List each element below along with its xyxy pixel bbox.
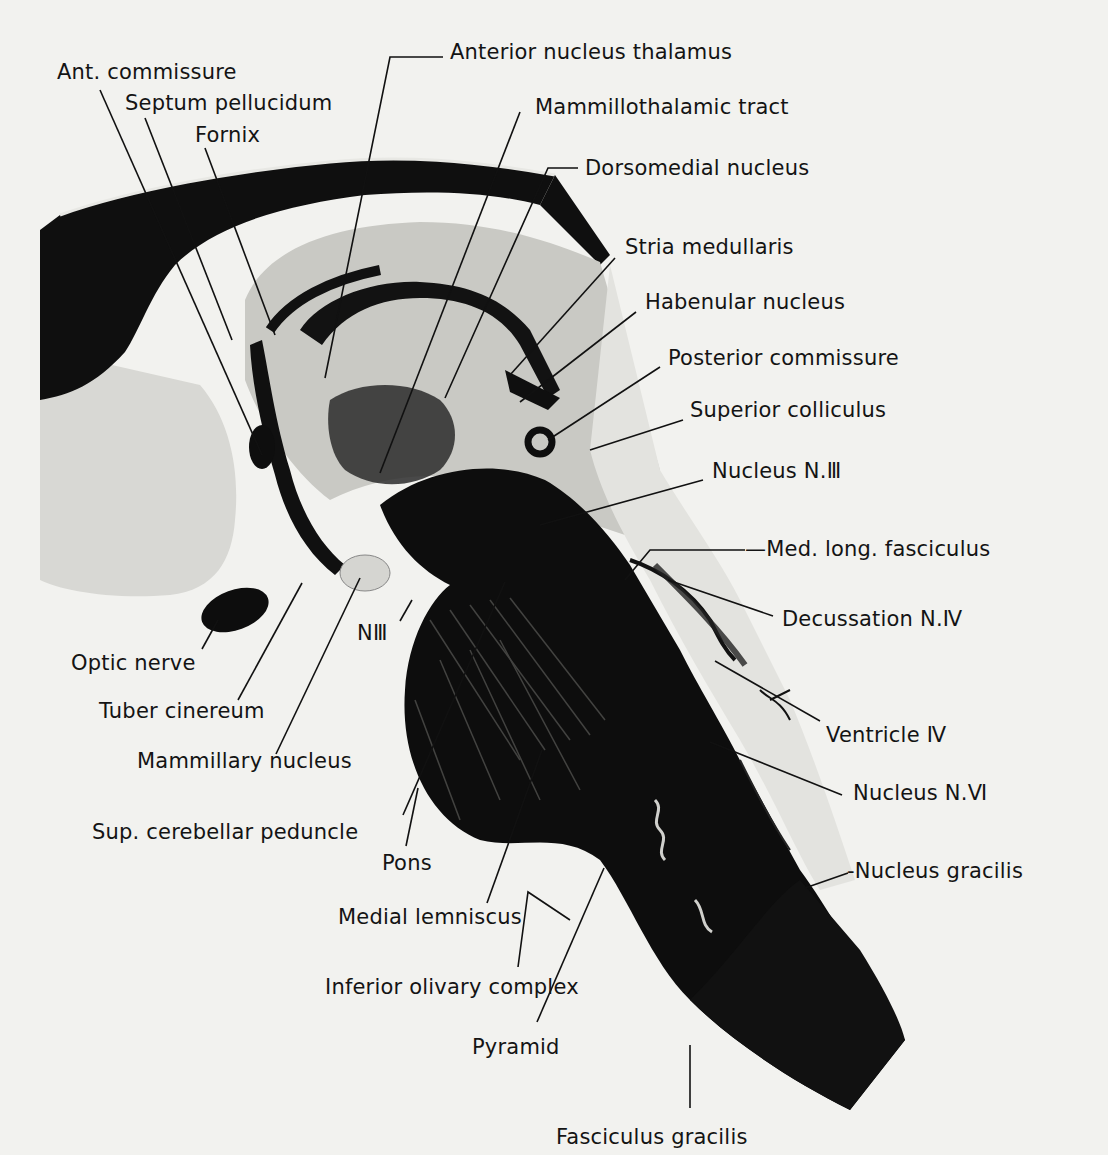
label-mammillary-nucleus: Mammillary nucleus xyxy=(137,751,352,772)
label-nucleus-gracilis: -Nucleus gracilis xyxy=(847,861,1023,882)
label-posterior-commissure: Posterior commissure xyxy=(668,348,899,369)
label-nucleus-n-iii: Nucleus N.Ⅲ xyxy=(712,461,841,482)
label-dorsomedial-nucleus: Dorsomedial nucleus xyxy=(585,158,809,179)
label-habenular-nucleus: Habenular nucleus xyxy=(645,292,845,313)
label-fornix: Fornix xyxy=(195,125,260,146)
label-fasciculus-gracilis: Fasciculus gracilis xyxy=(556,1127,748,1148)
label-stria-medullaris: Stria medullaris xyxy=(625,237,794,258)
label-optic-nerve: Optic nerve xyxy=(71,653,196,674)
label-med-long-fasciculus: —Med. long. fasciculus xyxy=(745,539,990,560)
label-medial-lemniscus: Medial lemniscus xyxy=(338,907,522,928)
label-septum-pellucidum: Septum pellucidum xyxy=(125,93,332,114)
label-pons: Pons xyxy=(382,853,432,874)
label-nucleus-n-vi: Nucleus N.Ⅵ xyxy=(853,783,987,804)
label-ventricle-iv: Ventricle Ⅳ xyxy=(826,725,946,746)
label-decussation-n-iv: Decussation N.Ⅳ xyxy=(782,609,962,630)
label-sup-cerebellar-peduncle: Sup. cerebellar peduncle xyxy=(92,822,358,843)
label-anterior-nucleus-thalamus: Anterior nucleus thalamus xyxy=(450,42,732,63)
label-ant-commissure: Ant. commissure xyxy=(57,62,237,83)
label-mammillothalamic-tract: Mammillothalamic tract xyxy=(535,97,789,118)
label-n-iii: NⅢ xyxy=(357,623,388,644)
label-tuber-cinereum: Tuber cinereum xyxy=(99,701,265,722)
label-superior-colliculus: Superior colliculus xyxy=(690,400,886,421)
label-pyramid: Pyramid xyxy=(472,1037,560,1058)
label-inferior-olivary-complex: Inferior olivary complex xyxy=(325,977,579,998)
anatomy-figure: Ant. commissureSeptum pellucidumFornixAn… xyxy=(0,0,1108,1155)
